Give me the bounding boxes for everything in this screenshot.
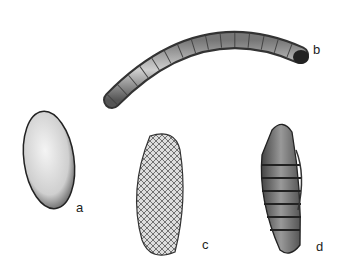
pupa-drawing: [261, 124, 302, 253]
panel-label-c: c: [202, 237, 209, 252]
insect-life-stages-illustration: a b c d: [0, 0, 343, 263]
larva-drawing: [112, 40, 309, 100]
panel-label-a: a: [76, 200, 83, 215]
panel-label-b: b: [313, 42, 320, 57]
panel-label-d: d: [316, 239, 323, 254]
cocoon-drawing: [137, 134, 183, 255]
egg-drawing: [17, 108, 80, 212]
